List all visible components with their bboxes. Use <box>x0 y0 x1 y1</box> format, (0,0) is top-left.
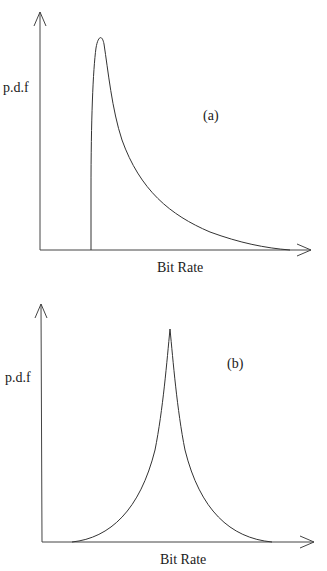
panel-label-b: (b) <box>227 356 244 372</box>
xlabel-a: Bit Rate <box>157 260 203 275</box>
ylabel-b: p.d.f <box>5 370 31 385</box>
panel-a: p.d.f (a) Bit Rate <box>3 12 311 275</box>
xlabel-b: Bit Rate <box>160 552 206 567</box>
panel-b: p.d.f (b) Bit Rate <box>5 304 314 567</box>
y-axis-b <box>41 304 42 542</box>
panel-label-a: (a) <box>203 108 219 124</box>
curve-a <box>91 38 290 250</box>
ylabel-a: p.d.f <box>3 80 29 95</box>
figure: p.d.f (a) Bit Rate p.d.f (b) Bit Rate <box>0 0 327 571</box>
